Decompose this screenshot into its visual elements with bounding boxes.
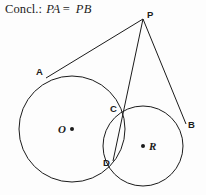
segment-pb xyxy=(143,19,186,124)
geometry-figure: Concl.:PA=PB P A B C D O R xyxy=(0,0,206,195)
point-label-d: D xyxy=(103,158,110,168)
center-dot-r xyxy=(141,144,145,148)
center-dots-group xyxy=(70,127,145,148)
center-dot-o xyxy=(70,127,74,131)
center-label-o: O xyxy=(58,124,66,135)
circles-group xyxy=(19,76,183,186)
point-label-c: C xyxy=(110,104,117,114)
point-label-a: A xyxy=(36,67,43,77)
segment-pa xyxy=(46,19,143,78)
center-label-r: R xyxy=(149,141,156,152)
point-label-p: P xyxy=(147,10,153,20)
segment-pd xyxy=(113,19,143,161)
point-label-b: B xyxy=(188,120,195,130)
segments-group xyxy=(46,19,186,161)
